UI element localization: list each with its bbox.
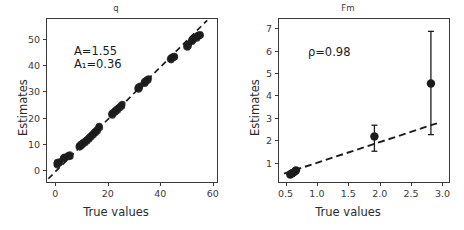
ytick-label: 10 <box>12 138 40 149</box>
xtick-mark <box>317 183 318 186</box>
ylabel-q: Estimates <box>16 79 30 136</box>
xtick-mark <box>380 183 381 186</box>
ytick-label: 7 <box>244 23 272 34</box>
xtick-mark <box>286 183 287 186</box>
xtick-mark <box>442 183 443 186</box>
xtick-label: 3.0 <box>435 188 450 199</box>
xtick-mark <box>108 183 109 186</box>
xtick-label: 1.5 <box>341 188 356 199</box>
annotation-rho: ρ=0.98 <box>286 33 350 72</box>
xtick-label: 0.5 <box>278 188 293 199</box>
ytick-label: 0 <box>12 164 40 175</box>
scatter-point <box>292 166 300 174</box>
xtick-mark <box>213 183 214 186</box>
ytick-mark <box>275 95 278 96</box>
ytick-label: 6 <box>244 45 272 56</box>
figure-root: q A=1.55 A₁=0.36 010203040500204060 True… <box>0 0 464 230</box>
ytick-label: 40 <box>12 60 40 71</box>
xtick-label: 60 <box>207 188 219 199</box>
xtick-label: 0 <box>52 188 58 199</box>
scatter-point <box>145 75 152 82</box>
xtick-mark <box>411 183 412 186</box>
xtick-label: 1.0 <box>309 188 324 199</box>
ytick-mark <box>43 118 46 119</box>
ytick-label: 50 <box>12 33 40 44</box>
xtick-mark <box>348 183 349 186</box>
panel-fm: Fm ρ=0.98 12345670.51.01.52.02.53.0 True… <box>232 0 464 230</box>
xtick-label: 2.0 <box>372 188 387 199</box>
scatter-point <box>67 153 74 160</box>
panel-q: q A=1.55 A₁=0.36 010203040500204060 True… <box>0 0 232 230</box>
xtick-label: 40 <box>154 188 166 199</box>
annotation-A1-text: A₁=0.36 <box>74 57 122 71</box>
panel-title-fm: Fm <box>232 3 464 13</box>
annotation-A1: A₁=0.36 <box>52 45 122 84</box>
ytick-mark <box>275 28 278 29</box>
xtick-mark <box>55 183 56 186</box>
panel-title-q: q <box>0 3 232 13</box>
xtick-label: 20 <box>102 188 114 199</box>
xlabel-fm: True values <box>232 205 464 219</box>
ytick-mark <box>43 144 46 145</box>
ytick-label: 1 <box>244 157 272 168</box>
ytick-mark <box>275 140 278 141</box>
ytick-label: 5 <box>244 68 272 79</box>
ylabel-fm: Estimates <box>248 79 262 136</box>
fit-line <box>284 123 438 174</box>
ytick-mark <box>275 163 278 164</box>
scatter-point <box>197 32 204 39</box>
scatter-point <box>427 79 435 87</box>
ytick-mark <box>43 65 46 66</box>
ytick-mark <box>275 118 278 119</box>
scatter-point <box>96 124 103 131</box>
ytick-mark <box>275 51 278 52</box>
scatter-point <box>119 101 126 108</box>
ytick-mark <box>43 39 46 40</box>
annotation-rho-text: ρ=0.98 <box>308 45 351 59</box>
ytick-mark <box>275 73 278 74</box>
xtick-mark <box>160 183 161 186</box>
scatter-point <box>370 132 378 140</box>
ytick-mark <box>43 91 46 92</box>
ytick-mark <box>43 170 46 171</box>
ytick-label: 2 <box>244 135 272 146</box>
xtick-label: 2.5 <box>404 188 419 199</box>
scatter-point <box>172 54 179 61</box>
xlabel-q: True values <box>0 205 232 219</box>
